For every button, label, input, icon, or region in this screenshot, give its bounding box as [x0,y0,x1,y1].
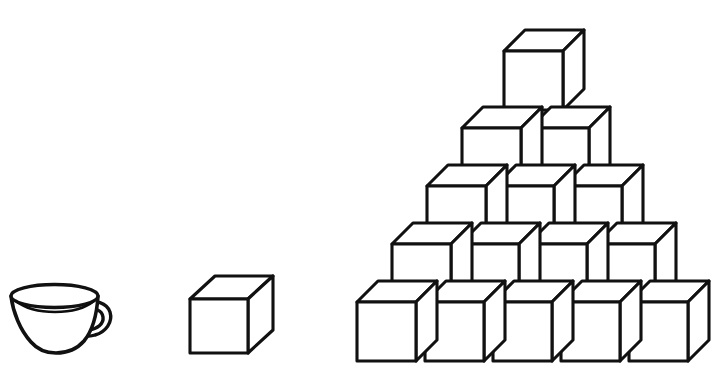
drawing-canvas [0,0,725,390]
cube-pyramid [357,30,709,361]
pyramid-row-5 [504,30,584,110]
teacup-rim [11,285,98,308]
line-drawing-svg [0,0,725,390]
pyramid-row-1 [357,281,709,361]
cube-front-face [504,51,563,110]
cube-front-face [357,302,416,361]
single-cube [190,276,273,353]
pyramid-cube [504,30,584,110]
teacup [11,285,111,354]
pyramid-cube [357,281,437,361]
single-cube-front-face [190,299,248,353]
